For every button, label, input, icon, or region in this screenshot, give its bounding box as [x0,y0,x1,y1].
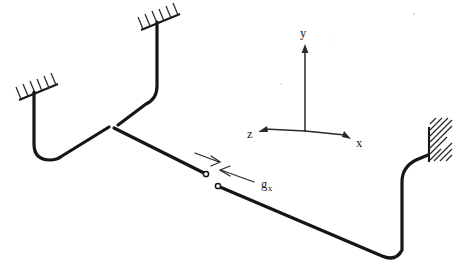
pipe-top-branch [118,22,157,125]
axis-y [302,44,309,131]
axis-x-arrowhead [342,131,351,139]
left-anchor-hatching [16,73,56,99]
axis-z [258,126,305,132]
pipe-main-run-right-of-gap [220,155,428,258]
axis-label-z: z [247,127,253,141]
gap-arrow-left [195,153,220,166]
gap-label: g x [261,177,273,193]
diagram-svg: g x y x z [0,0,459,277]
gap-arrow-right [220,166,254,182]
piping-diagram-canvas: g x y x z [0,0,459,277]
anchor-top [138,3,180,30]
axis-z-arrowhead [258,126,268,132]
pipe-left-branch [34,92,109,160]
gap-node-left [203,171,208,176]
axis-y-arrowhead [302,44,309,53]
axis-label-y: y [300,26,307,40]
gap-label-subscript: x [268,183,273,193]
axis-x [305,131,351,139]
coordinate-axes: y x z [247,26,363,150]
anchor-left [16,73,58,100]
pipe-main-run-left-of-gap [114,128,204,173]
gap-label-main: g [261,177,268,191]
scan-artifacts [280,13,415,85]
axis-label-x: x [356,136,363,150]
right-anchor-hatching [430,118,452,161]
anchor-right [429,118,452,162]
gap-node-right [215,183,220,188]
